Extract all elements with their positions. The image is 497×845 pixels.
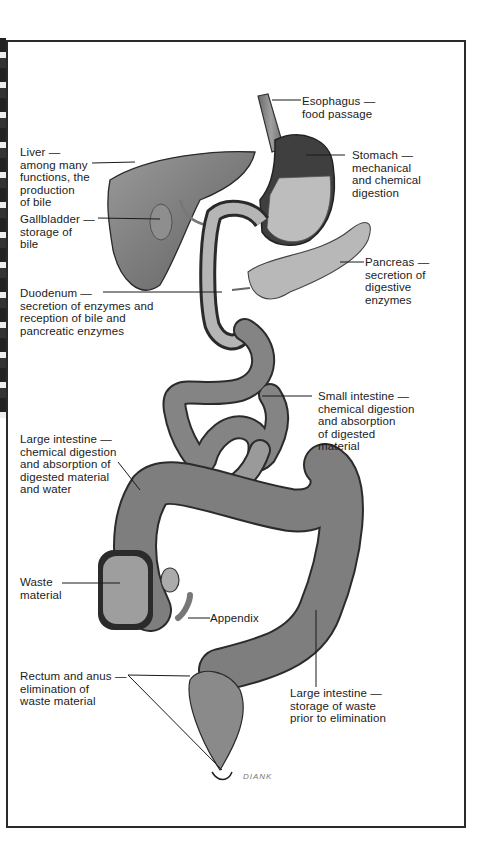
gallbladder bbox=[150, 204, 172, 240]
appendix bbox=[178, 595, 190, 618]
cecum-waste bbox=[98, 550, 190, 630]
label-large-intestine-upper: Large intestine —chemical digestion and … bbox=[20, 433, 116, 496]
label-desc: chemical digestion and absorption of dig… bbox=[318, 403, 414, 453]
label-desc: secretion of enzymes and reception of bi… bbox=[20, 300, 153, 337]
label-name: Large intestine — bbox=[290, 687, 382, 699]
label-desc: mechanical and chemical digestion bbox=[352, 162, 421, 199]
stomach bbox=[260, 135, 334, 245]
label-small-intestine: Small intestine —chemical digestion and … bbox=[318, 390, 414, 453]
label-name: Duodenum — bbox=[20, 287, 92, 299]
label-name: Liver — bbox=[20, 146, 60, 158]
label-stomach: Stomach —mechanical and chemical digesti… bbox=[352, 149, 421, 199]
label-desc: elimination of waste material bbox=[20, 683, 96, 708]
label-desc: chemical digestion and absorption of dig… bbox=[20, 446, 116, 496]
label-desc: among many functions, the production of … bbox=[20, 159, 90, 209]
digestive-system-illustration bbox=[0, 0, 497, 845]
label-name: Appendix bbox=[210, 612, 259, 624]
label-large-intestine-lower: Large intestine —storage of waste prior … bbox=[290, 687, 386, 725]
label-pancreas: Pancreas —secretion of digestive enzymes bbox=[365, 256, 429, 306]
label-rectum: Rectum and anus —elimination of waste ma… bbox=[20, 670, 127, 708]
label-name: Gallbladder — bbox=[20, 213, 95, 225]
rectum bbox=[189, 671, 243, 779]
label-desc: material bbox=[20, 589, 62, 601]
label-name: Large intestine — bbox=[20, 433, 112, 445]
label-name: Esophagus — bbox=[302, 95, 375, 107]
label-name: Pancreas — bbox=[365, 256, 429, 268]
label-liver: Liver —among many functions, the product… bbox=[20, 146, 90, 209]
label-name: Waste bbox=[20, 576, 53, 588]
large-intestine bbox=[135, 465, 342, 670]
label-name: Stomach — bbox=[352, 149, 413, 161]
artist-signature: DIANK bbox=[243, 772, 272, 781]
label-desc: storage of bile bbox=[20, 226, 72, 251]
liver bbox=[108, 152, 255, 290]
label-duodenum: Duodenum —secretion of enzymes and recep… bbox=[20, 287, 153, 337]
label-name: Rectum and anus — bbox=[20, 670, 127, 682]
label-gallbladder: Gallbladder —storage of bile bbox=[20, 213, 95, 251]
label-appendix: Appendix bbox=[210, 612, 259, 625]
label-desc: storage of waste prior to elimination bbox=[290, 700, 386, 725]
label-desc: food passage bbox=[302, 108, 372, 120]
label-esophagus: Esophagus —food passage bbox=[302, 95, 375, 120]
label-name: Small intestine — bbox=[318, 390, 409, 402]
label-desc: secretion of digestive enzymes bbox=[365, 269, 426, 306]
label-waste: Wastematerial bbox=[20, 576, 62, 601]
